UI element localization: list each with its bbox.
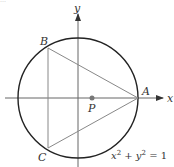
point-c-label: C xyxy=(38,151,47,164)
eq-equals: = 1 xyxy=(146,150,167,161)
unit-circle-diagram: y x A B C P x2 + y2 = 1 xyxy=(0,0,174,167)
point-p-marker xyxy=(90,96,95,101)
x-axis-label: x xyxy=(167,92,174,105)
circle-equation: x2 + y2 = 1 xyxy=(111,149,167,161)
eq-plus: + xyxy=(121,150,136,161)
point-p-label: P xyxy=(87,102,96,115)
y-axis-label: y xyxy=(73,2,81,15)
point-b-label: B xyxy=(39,35,48,48)
point-a-label: A xyxy=(141,85,150,98)
